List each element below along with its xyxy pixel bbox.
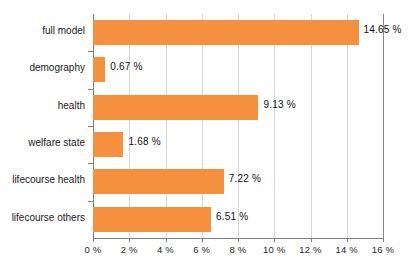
bar-row: welfare state1.68 %: [93, 126, 383, 163]
x-tick-mark: [93, 238, 94, 242]
bar: [93, 95, 258, 120]
x-tick-mark: [311, 238, 312, 242]
category-label: welfare state: [28, 137, 85, 148]
bar: [93, 57, 105, 82]
bar: [93, 207, 211, 232]
x-tick-mark: [202, 238, 203, 242]
bar-row: health9.13 %: [93, 89, 383, 126]
bar-value-label: 9.13 %: [263, 99, 295, 110]
x-tick-label: 2 %: [121, 244, 138, 255]
x-tick-mark: [238, 238, 239, 242]
x-tick-mark: [383, 238, 384, 242]
bar: [93, 20, 359, 45]
bar-row: demography0.67 %: [93, 51, 383, 88]
category-label: health: [58, 100, 85, 111]
bar-chart: 0 %2 %4 %6 %8 %10 %12 %14 %16 % full mod…: [0, 0, 412, 273]
category-label: lifecourse others: [12, 212, 85, 223]
x-tick-label: 6 %: [193, 244, 210, 255]
bar-row: full model14.65 %: [93, 14, 383, 51]
bar-value-label: 14.65 %: [364, 24, 402, 35]
bar-value-label: 0.67 %: [110, 61, 142, 72]
bar: [93, 169, 224, 194]
x-tick-label: 14 %: [336, 244, 358, 255]
x-tick-mark: [347, 238, 348, 242]
bar: [93, 132, 123, 157]
category-label: full model: [42, 25, 85, 36]
x-tick-mark: [129, 238, 130, 242]
x-tick-mark: [166, 238, 167, 242]
bar-value-label: 7.22 %: [229, 173, 261, 184]
x-tick-label: 0 %: [85, 244, 102, 255]
bar-value-label: 1.68 %: [128, 136, 160, 147]
gridline: [383, 14, 384, 238]
x-tick-label: 12 %: [299, 244, 321, 255]
x-tick-mark: [274, 238, 275, 242]
x-tick-label: 10 %: [263, 244, 285, 255]
category-label: lifecourse health: [12, 174, 85, 185]
bar-row: lifecourse others6.51 %: [93, 201, 383, 238]
x-tick-label: 8 %: [230, 244, 247, 255]
x-tick-label: 4 %: [157, 244, 174, 255]
category-label: demography: [29, 62, 85, 73]
x-tick-label: 16 %: [372, 244, 394, 255]
bar-value-label: 6.51 %: [216, 211, 248, 222]
bar-row: lifecourse health7.22 %: [93, 163, 383, 200]
